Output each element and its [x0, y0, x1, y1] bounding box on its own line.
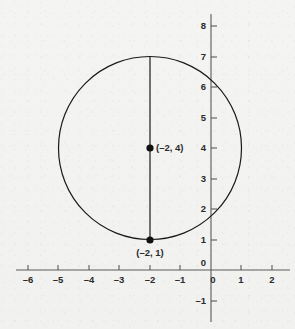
x-tick-label--4: –4 [84, 275, 95, 285]
x-tick-label-0: 0 [210, 275, 215, 285]
center-point [146, 144, 153, 151]
y-tick-label-6: 6 [201, 82, 206, 92]
y-tick-label-4: 4 [201, 143, 206, 153]
x-tick-label-1: 1 [238, 275, 243, 285]
y-tick-label-5: 5 [201, 113, 206, 123]
center-point-label: (–2, 4) [156, 143, 183, 153]
y-tick-label-1: 1 [201, 235, 206, 245]
bottom-point-label: (–2, 1) [136, 248, 163, 258]
x-tick-label--6: –6 [23, 275, 34, 285]
x-tick-marks [28, 265, 272, 270]
x-tick-label--2: –2 [145, 275, 156, 285]
x-tick-label--3: –3 [114, 275, 125, 285]
coordinate-plane-figure: –6 –5 –4 –3 –2 –1 0 1 2 8 7 6 5 4 3 2 1 … [0, 0, 295, 329]
y-tick-label-7: 7 [201, 52, 206, 62]
y-tick-marks [211, 26, 217, 301]
bottom-point [146, 236, 153, 243]
x-tick-label--1: –1 [175, 275, 186, 285]
x-tick-label--5: –5 [53, 275, 64, 285]
y-tick-label-0: 0 [201, 258, 206, 268]
x-tick-label-2: 2 [269, 275, 274, 285]
y-tick-label-8: 8 [201, 21, 206, 31]
y-tick-label-3: 3 [201, 174, 206, 184]
y-tick-label--1: –1 [195, 296, 206, 306]
y-tick-label-2: 2 [201, 204, 206, 214]
